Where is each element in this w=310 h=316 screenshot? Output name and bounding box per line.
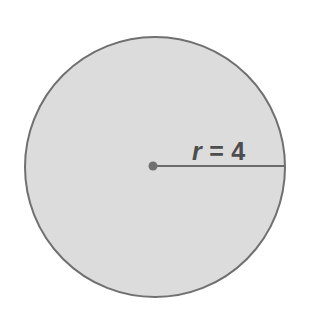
radius-value: 4 xyxy=(231,137,245,165)
circle-figure: r=4 xyxy=(0,0,310,316)
center-point-dot xyxy=(149,162,158,171)
equals-sign: = xyxy=(209,137,224,165)
figure-canvas: r=4 xyxy=(0,0,310,316)
radius-label: r=4 xyxy=(192,137,246,165)
radius-variable: r xyxy=(192,137,203,165)
